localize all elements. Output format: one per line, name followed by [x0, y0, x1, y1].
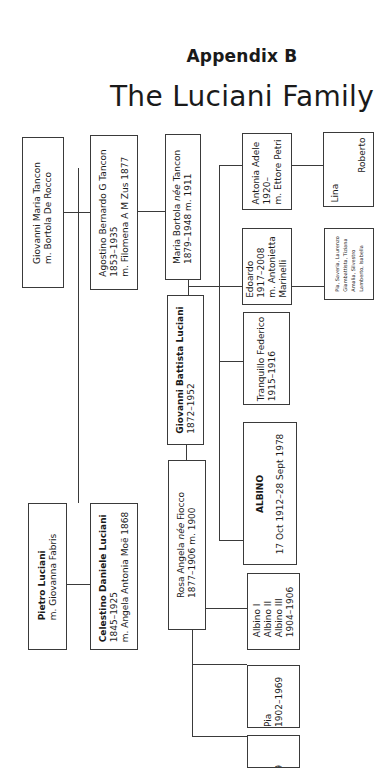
children-of-edoardo: Pia, Saveria, Laurenzo Giambattista, Tiz…: [324, 228, 374, 300]
connector: [219, 540, 243, 541]
person-name: ALBINO: [255, 433, 266, 554]
person-name: Rosa Angela née Fiocco: [176, 492, 187, 598]
person-spouse: Marinelli: [278, 236, 289, 298]
person-name: Edoardo: [245, 236, 256, 298]
person-name: Albino II: [263, 586, 274, 636]
connector: [192, 630, 193, 737]
person-maria-bortola: Maria Bortola née Tancon 1879–1948 m. 19…: [165, 134, 201, 280]
person-name: Antonia Adele: [251, 139, 262, 204]
connector: [188, 286, 242, 287]
person-pietro-luciani: Pietro Luciani m. Giovanna Fabris: [28, 503, 67, 650]
person-name: Agostino Bernardo G Tancon: [98, 149, 109, 276]
child-name: Lina: [330, 137, 341, 202]
person-name: Pia: [263, 667, 274, 727]
person-dates: 1872–1952: [186, 306, 197, 433]
person-albino-infants: Albino I Albino II Albino III 1904–1906: [247, 573, 300, 650]
person-name: Celestino Daniele Luciani: [98, 511, 109, 642]
person-giovanni-maria-tancon: Giovanni Maria Tancon m. Bortola De Rocc…: [22, 137, 64, 288]
person-spouse: m. Giovanna Fabris: [48, 533, 59, 620]
connector: [64, 212, 90, 213]
connector: [67, 584, 90, 585]
person-dates: 1917–2008: [256, 236, 267, 298]
person-spouse: m. Filomena A M Zus 1877: [120, 149, 131, 276]
connector: [138, 211, 165, 212]
connector: [219, 361, 243, 362]
person-name: Albino I: [252, 586, 263, 636]
children-names: Lamberto, Isabella: [357, 236, 365, 291]
connector: [192, 664, 247, 665]
person-spouse: m. Antonietta: [267, 236, 278, 298]
person-name: Maria Bortola née Tancon: [172, 150, 183, 264]
person-name: Giovanni Battista Luciani: [175, 306, 186, 433]
person-name: Pietro Luciani: [37, 533, 48, 620]
person-dates: 1845–1925: [109, 511, 120, 642]
person-dates: 1920–: [262, 139, 273, 204]
person-dates: 1853–1935: [109, 149, 120, 276]
person-dates: 1904–1906: [285, 586, 296, 636]
person-giovanni-battista-luciani: Giovanni Battista Luciani 1872–1952: [167, 295, 204, 445]
person-dates: 1902–1969: [274, 667, 285, 727]
connector: [292, 165, 323, 166]
connector: [188, 280, 189, 295]
connector: [292, 286, 324, 287]
person-name: Tranquillo Federico: [256, 316, 267, 401]
person-amalia: Amalia 1900–1939: [247, 735, 300, 768]
children-names: Amalia, Silvestro: [349, 236, 357, 291]
person-tranquillo-federico: Tranquillo Federico 1915–1916: [243, 312, 290, 405]
connector: [186, 445, 187, 460]
connector: [219, 165, 220, 540]
child-name: Roberto: [357, 137, 368, 202]
connector: [78, 168, 79, 503]
person-dates: 1879–1948 m. 1911: [183, 150, 194, 264]
person-name: Amalia: [263, 765, 274, 768]
person-spouse: m. Bortola De Rocco: [43, 162, 54, 264]
connector: [219, 165, 242, 166]
children-of-antonia: Lina Roberto: [323, 132, 374, 207]
person-dates: 1877–1906 m. 1900: [187, 492, 198, 598]
person-dates: 17 Oct 1912–28 Sept 1978: [275, 433, 286, 554]
person-edoardo: Edoardo 1917–2008 m. Antonietta Marinell…: [242, 228, 292, 305]
person-celestino-luciani: Celestino Daniele Luciani 1845–1925 m. A…: [90, 503, 138, 650]
person-albino: ALBINO 17 Oct 1912–28 Sept 1978: [243, 422, 297, 565]
person-agostino-tancon: Agostino Bernardo G Tancon 1853–1935 m. …: [90, 135, 138, 290]
person-spouse: m. Angela Antonia Moë 1868: [120, 511, 131, 642]
person-dates: 1900–1939: [274, 765, 285, 768]
person-name: Giovanni Maria Tancon: [32, 162, 43, 264]
connector: [192, 736, 247, 737]
children-names: Giambattista, Tiziana: [341, 236, 349, 291]
appendix-label: Appendix B: [92, 46, 392, 66]
children-names: Pia, Saveria, Laurenzo: [333, 236, 341, 291]
page-title: The Luciani Family: [92, 80, 392, 113]
person-pia: Pia 1902–1969: [247, 665, 300, 728]
person-rosa-angela: Rosa Angela née Fiocco 1877–1906 m. 1900: [168, 460, 206, 630]
person-antonia-adele: Antonia Adele 1920– m. Ettore Petri: [242, 133, 292, 210]
person-dates: 1915–1916: [267, 316, 278, 401]
person-spouse: m. Ettore Petri: [273, 139, 284, 204]
person-name: Albino III: [274, 586, 285, 636]
